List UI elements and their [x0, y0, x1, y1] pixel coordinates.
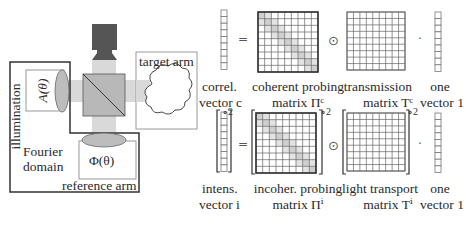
illumination-lens-icon [55, 70, 69, 112]
transmission-label-line1: transmission [338, 79, 418, 94]
phase-label: Φ(θ) [89, 153, 114, 168]
coherent-probing-label-line2: matrix Πᶜ [248, 95, 348, 110]
incoherent-probing-label-line1: incoher. probing [248, 181, 348, 196]
amplitude-label: A(θ) [35, 79, 50, 103]
dot-sign-top: · [418, 32, 422, 46]
target-arm-label: target arm [139, 54, 194, 69]
intens-label-line1: intens. [202, 181, 238, 196]
camera-icon [92, 24, 117, 60]
illumination-label: illumination [8, 90, 23, 150]
correl-label-line1: correl. [202, 79, 237, 94]
ones-label-top-line2: vector 1 [418, 95, 466, 110]
power-sup-vector: ∘2 [222, 106, 233, 117]
correl-label-line2: vector c [199, 95, 242, 110]
equals-sign-bottom: = [238, 137, 248, 151]
fourier-label-line2: domain [23, 159, 64, 174]
dot-sign-bottom: · [418, 137, 422, 151]
incoherent-probing-label-line2: matrix Πⁱ [248, 197, 348, 212]
reference-lens-icon [82, 133, 126, 147]
fourier-label-line1: Fourier [23, 144, 63, 159]
power-sup-transport: ∘2 [407, 106, 418, 117]
beamsplitter-icon [83, 74, 125, 116]
coherent-probing-label-line1: coherent probing [248, 79, 348, 94]
intens-label-line2: vector i [199, 197, 240, 212]
power-sup-probing: ∘2 [320, 106, 331, 117]
equals-sign-top: = [238, 32, 248, 46]
hadamard-sign-bottom: ⊙ [328, 138, 339, 153]
light-transport-label-line1: light transport [334, 181, 426, 196]
ones-label-bottom-line1: one [420, 181, 460, 196]
ones-label-bottom-line2: vector 1 [418, 197, 466, 212]
hadamard-sign-top: ⊙ [328, 33, 339, 48]
light-transport-label-line2: matrix Tⁱ [348, 197, 428, 212]
reference-arm-label: reference arm [62, 178, 137, 193]
ones-label-top-line1: one [420, 79, 460, 94]
